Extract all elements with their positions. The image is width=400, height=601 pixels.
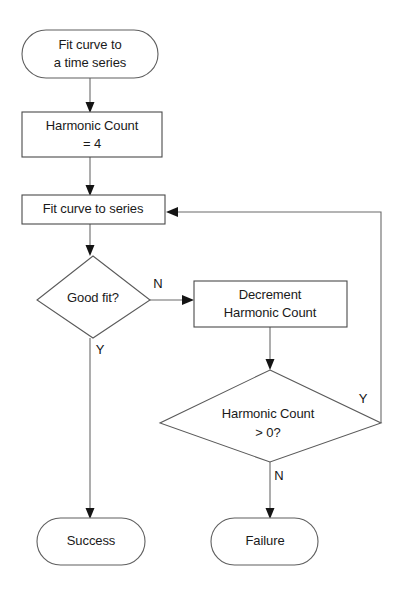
edge-start-to-init bbox=[86, 78, 95, 113]
node-failure-label: Failure bbox=[245, 533, 284, 548]
arrowhead-icon bbox=[182, 295, 194, 305]
edge-label-count-positive-no: N bbox=[274, 468, 283, 483]
node-init-harmonic-count[interactable]: Harmonic Count = 4 bbox=[22, 112, 162, 157]
edge-count-positive-no-to-failure: N bbox=[266, 462, 284, 519]
node-start[interactable]: Fit curve to a time series bbox=[22, 30, 158, 78]
arrowhead-icon bbox=[166, 207, 178, 217]
node-good-fit-label: Good fit? bbox=[67, 290, 119, 305]
node-fit-curve[interactable]: Fit curve to series bbox=[22, 195, 165, 224]
node-start-line2: a time series bbox=[54, 55, 127, 70]
node-decrement[interactable]: Decrement Harmonic Count bbox=[194, 281, 347, 327]
flowchart-diagram: N Y Y N Fit curve to bbox=[0, 0, 400, 601]
node-decrement-line1: Decrement bbox=[239, 287, 302, 302]
node-success[interactable]: Success bbox=[37, 518, 145, 565]
node-good-fit[interactable]: Good fit? bbox=[37, 256, 150, 338]
arrowhead-icon bbox=[86, 102, 95, 113]
edge-label-good-fit-yes: Y bbox=[96, 342, 105, 357]
node-fit-curve-label: Fit curve to series bbox=[43, 201, 144, 216]
edge-init-to-fit-curve bbox=[86, 157, 95, 196]
edge-fit-curve-to-good-fit bbox=[86, 224, 95, 256]
node-success-label: Success bbox=[67, 533, 116, 548]
edge-label-count-positive-yes: Y bbox=[359, 391, 368, 406]
node-count-positive[interactable]: Harmonic Count > 0? bbox=[160, 370, 381, 462]
node-count-positive-line1: Harmonic Count bbox=[222, 406, 315, 421]
node-init-harmonic-count-line2: = 4 bbox=[83, 136, 101, 151]
edge-good-fit-no-to-decrement: N bbox=[150, 276, 194, 305]
node-init-harmonic-count-line1: Harmonic Count bbox=[46, 118, 139, 133]
node-start-line1: Fit curve to bbox=[58, 37, 121, 52]
arrowhead-icon bbox=[86, 508, 95, 519]
edge-label-good-fit-no: N bbox=[153, 276, 162, 291]
arrowhead-icon bbox=[266, 359, 275, 370]
arrowhead-icon bbox=[266, 508, 275, 519]
node-failure[interactable]: Failure bbox=[211, 518, 318, 565]
node-count-positive-line2: > 0? bbox=[255, 425, 280, 440]
edge-decrement-to-count-positive bbox=[266, 327, 275, 370]
edge-good-fit-yes-to-success: Y bbox=[86, 338, 105, 519]
arrowhead-icon bbox=[86, 185, 95, 196]
node-decrement-line2: Harmonic Count bbox=[224, 305, 317, 320]
arrowhead-icon bbox=[86, 245, 95, 256]
flowchart-canvas: N Y Y N Fit curve to bbox=[0, 0, 400, 601]
